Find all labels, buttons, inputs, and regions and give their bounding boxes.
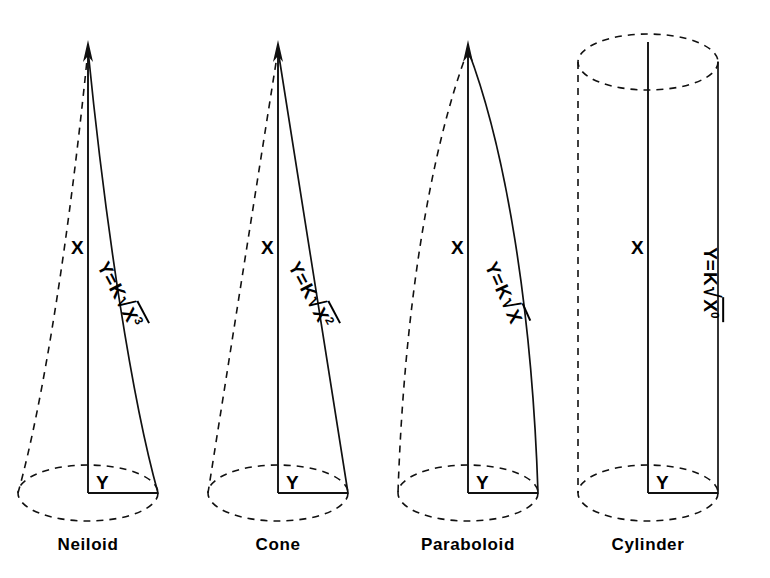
shape-neiloid <box>18 40 158 521</box>
caption-neiloid: Neiloid <box>8 535 168 555</box>
paraboloid-axis-label: X <box>451 238 464 257</box>
shape-cylinder <box>578 34 718 521</box>
caption-cylinder: Cylinder <box>583 535 713 555</box>
paraboloid-radius-label: Y <box>476 473 489 492</box>
cylinder-radius-label: Y <box>656 473 669 492</box>
caption-cone: Cone <box>213 535 343 555</box>
cylinder-radical-icon: √ <box>700 287 723 298</box>
neiloid-axis-label: X <box>71 238 84 257</box>
caption-paraboloid: Paraboloid <box>393 535 543 555</box>
cylinder-axis-label: X <box>631 238 644 257</box>
shape-cone <box>208 40 348 521</box>
cylinder-formula: Y=K√X0 <box>700 247 724 322</box>
neiloid-radius-label: Y <box>96 473 109 492</box>
cylinder-formula-eq: = <box>700 260 721 272</box>
cone-radius-label: Y <box>286 473 299 492</box>
paraboloid-left-profile-hidden <box>398 50 468 493</box>
cone-axis-label: X <box>261 238 274 257</box>
shape-paraboloid <box>398 40 538 521</box>
cylinder-formula-base: X <box>700 299 721 312</box>
cylinder-formula-exponent: 0 <box>709 312 722 319</box>
neiloid-left-profile-hidden <box>18 50 88 493</box>
cylinder-formula-y: Y <box>700 247 721 260</box>
cylinder-formula-k: K <box>700 272 721 286</box>
stem-form-figure: X Y Y=K√X3 Neiloid X Y Y=K√X2 Cone X Y Y… <box>0 0 770 578</box>
cone-left-profile-hidden <box>208 50 278 493</box>
